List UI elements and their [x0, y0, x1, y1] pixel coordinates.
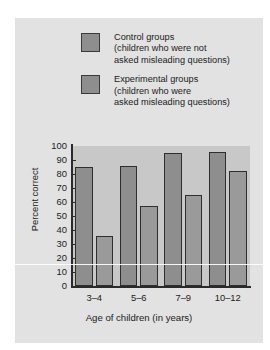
- y-axis-tick-label: 10: [57, 267, 67, 277]
- bar[interactable]: [229, 171, 247, 286]
- legend-item-control[interactable]: Control groups (children who were not as…: [15, 32, 263, 66]
- legend-label-experimental-title: Experimental groups: [114, 74, 230, 85]
- legend-label-experimental: Experimental groups (children who were a…: [114, 74, 230, 108]
- y-axis-tick: 80: [15, 169, 77, 179]
- y-axis-tick-label: 0: [62, 281, 67, 291]
- bar[interactable]: [120, 166, 138, 286]
- legend-swatch-experimental: [81, 75, 100, 94]
- y-axis-tick-label: 60: [57, 197, 67, 207]
- bar[interactable]: [140, 206, 158, 286]
- bar[interactable]: [75, 167, 93, 286]
- y-axis-tick: 20: [15, 253, 77, 263]
- y-axis-tick-label: 20: [57, 253, 67, 263]
- y-axis-tick: 60: [15, 197, 77, 207]
- legend-label-control-sub2: asked misleading questions): [114, 55, 230, 66]
- bar-chart: Percent correct 1009080706050403020100 3…: [15, 136, 263, 343]
- x-axis-category-label: 5–6: [117, 292, 162, 303]
- x-axis-category-label: 3–4: [72, 292, 117, 303]
- y-axis-tick: 90: [15, 155, 77, 165]
- legend-label-control-sub1: (children who were not: [114, 43, 230, 54]
- y-axis-tick: 0: [15, 281, 77, 291]
- y-axis-tick-label: 30: [57, 239, 67, 249]
- y-axis-tick: 100: [15, 141, 77, 151]
- bar[interactable]: [96, 236, 114, 286]
- x-axis-line: [71, 286, 251, 288]
- x-axis-category-label: 7–9: [161, 292, 206, 303]
- y-axis-tick: 40: [15, 225, 77, 235]
- y-axis-tick-label: 70: [57, 183, 67, 193]
- bar[interactable]: [209, 152, 227, 286]
- y-axis-tick: 50: [15, 211, 77, 221]
- y-axis-tick-label: 50: [57, 211, 67, 221]
- y-axis-tick-label: 40: [57, 225, 67, 235]
- y-axis-tick: 70: [15, 183, 77, 193]
- legend-item-experimental[interactable]: Experimental groups (children who were a…: [15, 74, 263, 108]
- legend-label-control-title: Control groups: [114, 32, 230, 43]
- legend-label-experimental-sub2: asked misleading questions): [114, 97, 230, 108]
- y-axis-tick-label: 100: [51, 141, 67, 151]
- figure-panel: Control groups (children who were not as…: [15, 18, 263, 343]
- y-axis-tick: 30: [15, 239, 77, 249]
- x-axis-category-label: 10–12: [206, 292, 251, 303]
- bar[interactable]: [164, 153, 182, 286]
- legend-swatch-control: [81, 33, 100, 52]
- chart-legend: Control groups (children who were not as…: [15, 18, 263, 116]
- y-axis-tick: 10: [15, 267, 77, 277]
- y-axis-tick-label: 90: [57, 155, 67, 165]
- y-axis-tick-label: 80: [57, 169, 67, 179]
- bar[interactable]: [185, 195, 203, 286]
- legend-label-control: Control groups (children who were not as…: [114, 32, 230, 66]
- legend-label-experimental-sub1: (children who were: [114, 86, 230, 97]
- y-axis-tick-mark: [72, 160, 76, 161]
- x-axis-title: Age of children (in years): [15, 312, 263, 323]
